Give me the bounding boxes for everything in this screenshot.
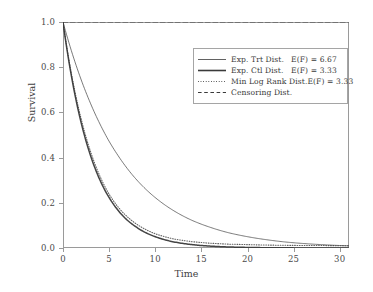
x-tick-mark (109, 248, 110, 252)
line-dashed-icon (197, 87, 227, 98)
legend-item-exp-ctl-dist: Exp. Ctl Dist. E(F) = 3.33 (197, 65, 343, 76)
x-tick-mark (294, 248, 295, 252)
legend-item-min-log-rank-dist: Min Log Rank Dist. E(F) = 3.33 (197, 76, 343, 87)
x-tick-label: 0 (60, 254, 66, 264)
x-axis-label: Time (0, 268, 373, 279)
legend-label: Exp. Ctl Dist. (231, 66, 291, 75)
line-dotted-icon (197, 76, 227, 87)
survival-curve-chart: 0.0 0.2 0.4 0.6 0.8 1.0 0 5 10 15 20 25 … (0, 0, 373, 292)
legend-label: Min Log Rank Dist. (231, 77, 307, 86)
legend-label: Censoring Dist. (231, 88, 292, 97)
y-tick-label: 0.2 (22, 198, 55, 208)
x-tick-mark (340, 248, 341, 252)
line-solid-thin-icon (197, 54, 227, 65)
legend-value: E(F) = 3.33 (291, 66, 343, 75)
line-solid-thick-icon (197, 65, 227, 76)
x-tick-label: 5 (106, 254, 112, 264)
x-tick-label: 20 (242, 254, 253, 264)
y-tick-label: 1.0 (22, 17, 55, 27)
y-tick-label: 0.0 (22, 243, 55, 253)
legend-value: E(F) = 3.33 (307, 77, 359, 86)
x-tick-label: 15 (196, 254, 207, 264)
x-tick-mark (248, 248, 249, 252)
y-axis-label: Survival (26, 63, 37, 143)
legend-item-exp-trt-dist: Exp. Trt Dist. E(F) = 6.67 (197, 54, 343, 65)
y-tick-label: 0.4 (22, 153, 55, 163)
x-tick-mark (155, 248, 156, 252)
x-tick-mark (63, 248, 64, 252)
legend-value: E(F) = 6.67 (291, 55, 343, 64)
x-tick-label: 25 (288, 254, 299, 264)
x-tick-mark (201, 248, 202, 252)
legend: Exp. Trt Dist. E(F) = 6.67 Exp. Ctl Dist… (193, 48, 348, 104)
legend-item-censoring-dist: Censoring Dist. (197, 87, 343, 98)
x-tick-label: 30 (334, 254, 345, 264)
legend-label: Exp. Trt Dist. (231, 55, 291, 64)
x-tick-label: 10 (150, 254, 161, 264)
